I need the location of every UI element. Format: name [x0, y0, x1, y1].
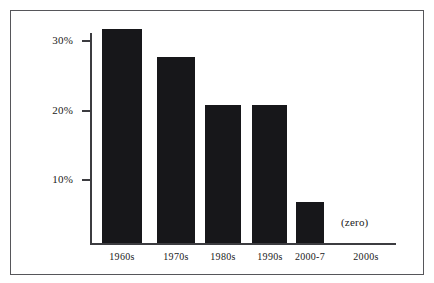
y-axis-line	[90, 33, 92, 245]
y-axis-label-10: 10%	[13, 174, 73, 185]
y-axis-label-20: 20%	[13, 105, 73, 116]
bar-2000-7[interactable]	[296, 202, 324, 243]
screenshot-root: 30% 20% 10% 1960s 1970s 1980s 1990s 2000…	[0, 0, 434, 283]
y-axis-label-30: 30%	[13, 35, 73, 46]
bar-1960s[interactable]	[102, 29, 142, 243]
bar-1990s[interactable]	[252, 105, 287, 243]
plot-area: 30% 20% 10% 1960s 1970s 1980s 1990s 2000…	[11, 11, 425, 276]
bar-1970s[interactable]	[157, 57, 195, 243]
chart-border: 30% 20% 10% 1960s 1970s 1980s 1990s 2000…	[10, 10, 424, 275]
bar-1980s[interactable]	[205, 105, 241, 243]
x-axis-line	[90, 243, 396, 245]
x-axis-label-1960s: 1960s	[92, 251, 152, 263]
y-axis-tick-10	[82, 179, 91, 181]
zero-annotation: (zero)	[341, 216, 368, 228]
y-axis-tick-20	[82, 110, 91, 112]
y-axis-tick-30	[82, 40, 91, 42]
x-axis-label-2000-7: 2000-7	[280, 251, 340, 263]
x-axis-label-2000s: 2000s	[336, 251, 396, 263]
